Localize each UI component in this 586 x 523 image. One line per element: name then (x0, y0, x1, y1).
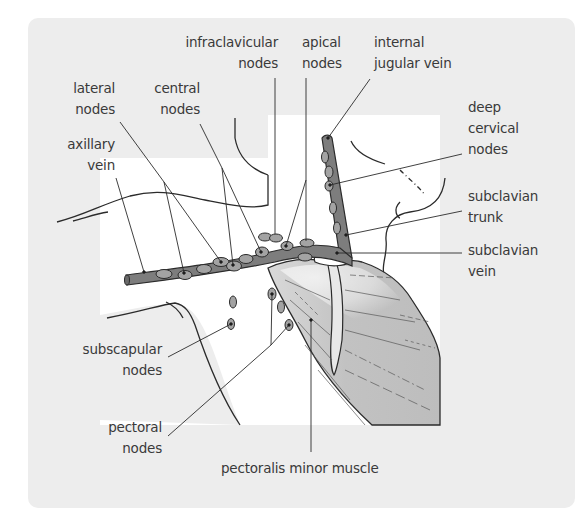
label-deep-cervical-nodes: deep cervical nodes (468, 97, 519, 160)
label-line: jugular vein (374, 53, 452, 74)
label-line: subclavian (468, 240, 538, 261)
label-line: cervical (468, 118, 519, 139)
label-pectoralis-minor-muscle: pectoralis minor muscle (221, 458, 379, 479)
label-apical-nodes: apical nodes (302, 32, 342, 74)
label-central-nodes: central nodes (140, 78, 200, 120)
label-line: central (140, 78, 200, 99)
label-line: pectoral (90, 417, 162, 438)
label-line: subclavian (468, 186, 538, 207)
label-line: pectoralis minor muscle (221, 458, 379, 479)
label-line: nodes (140, 99, 200, 120)
label-subscapular-nodes: subscapular nodes (60, 339, 162, 381)
label-line: nodes (90, 438, 162, 459)
label-subclavian-trunk: subclavian trunk (468, 186, 538, 228)
label-line: vein (40, 155, 115, 176)
label-line: nodes (170, 53, 278, 74)
label-axillary-vein: axillary vein (40, 134, 115, 176)
label-line: nodes (50, 99, 115, 120)
label-line: axillary (40, 134, 115, 155)
label-line: vein (468, 261, 538, 282)
label-line: nodes (468, 139, 519, 160)
label-internal-jugular-vein: internal jugular vein (374, 32, 452, 74)
label-line: apical (302, 32, 342, 53)
label-line: nodes (60, 360, 162, 381)
label-lateral-nodes: lateral nodes (50, 78, 115, 120)
label-line: lateral (50, 78, 115, 99)
label-pectoral-nodes: pectoral nodes (90, 417, 162, 459)
label-infraclavicular-nodes: infraclavicular nodes (170, 32, 278, 74)
label-line: deep (468, 97, 519, 118)
label-line: infraclavicular (170, 32, 278, 53)
label-line: trunk (468, 207, 538, 228)
label-line: nodes (302, 53, 342, 74)
label-line: subscapular (60, 339, 162, 360)
label-subclavian-vein: subclavian vein (468, 240, 538, 282)
label-line: internal (374, 32, 452, 53)
